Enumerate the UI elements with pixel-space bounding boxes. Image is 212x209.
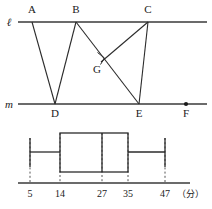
axis-unit-label: （分） — [177, 189, 204, 199]
segment-CG — [101, 22, 148, 62]
tick-label-q1: 14 — [55, 188, 65, 199]
segment-CE — [139, 22, 148, 104]
tick-label-min: 5 — [28, 188, 33, 199]
point-label-f: F — [183, 107, 189, 119]
point-label-e: E — [136, 107, 143, 119]
point-label-c: C — [144, 3, 151, 15]
segment-AD — [32, 22, 55, 104]
line-label-l: ℓ — [7, 16, 12, 28]
combined-figure-canvas: ℓ m A B C G D E F — [0, 0, 212, 209]
box-iqr — [60, 133, 128, 172]
tick-label-max: 47 — [160, 188, 170, 199]
box-plot: 5 14 27 35 47 （分） — [18, 133, 204, 199]
point-label-d: D — [51, 107, 59, 119]
segment-BE — [76, 22, 139, 104]
tick-label-q3: 35 — [123, 188, 133, 199]
line-label-m: m — [5, 98, 13, 110]
tick-label-median: 27 — [97, 188, 107, 199]
point-label-g: G — [93, 63, 101, 75]
point-f-dot-icon — [184, 102, 188, 106]
point-label-a: A — [28, 3, 36, 15]
segment-BD — [55, 22, 76, 104]
point-label-b: B — [72, 3, 79, 15]
screenshot-root: ℓ m A B C G D E F — [0, 0, 212, 209]
geometry-diagram: ℓ m A B C G D E F — [5, 3, 207, 119]
